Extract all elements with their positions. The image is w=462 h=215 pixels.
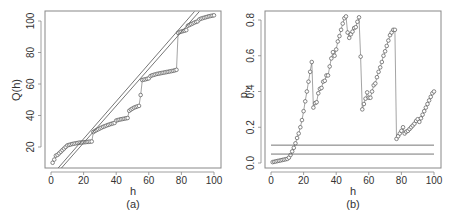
- data-point: [370, 90, 374, 94]
- data-point: [369, 96, 373, 100]
- x-tick-label: 80: [396, 175, 408, 186]
- series-connector: [53, 15, 214, 163]
- panel-b-caption: (b): [346, 198, 359, 210]
- data-point: [307, 80, 311, 84]
- x-tick-label: 80: [176, 175, 188, 186]
- data-point: [400, 129, 404, 133]
- data-point: [418, 120, 422, 124]
- data-point: [334, 48, 338, 52]
- data-point: [374, 82, 378, 86]
- data-point: [359, 55, 363, 59]
- y-tick-label: 80: [25, 47, 36, 59]
- data-point: [339, 28, 343, 32]
- data-point: [421, 113, 425, 117]
- x-tick-label: 20: [298, 175, 310, 186]
- data-point: [300, 118, 304, 122]
- x-tick-label: 60: [143, 175, 155, 186]
- data-point: [354, 25, 358, 29]
- data-point: [341, 22, 345, 26]
- data-point: [356, 20, 360, 24]
- data-point: [362, 102, 366, 106]
- data-point: [52, 158, 56, 162]
- data-point: [294, 142, 298, 146]
- data-point: [139, 93, 143, 97]
- x-tick-label: 40: [331, 175, 343, 186]
- panel-b-plot-area: [271, 15, 436, 164]
- data-point: [175, 68, 179, 72]
- data-point: [90, 140, 94, 144]
- x-tick-label: 60: [363, 175, 375, 186]
- data-point: [382, 54, 386, 58]
- data-point: [347, 36, 351, 40]
- data-point: [299, 125, 303, 129]
- data-point: [292, 146, 296, 150]
- y-tick-label: 100: [25, 12, 36, 29]
- panel-a-plot-area: [51, 12, 216, 171]
- data-point: [422, 109, 426, 113]
- bound-line: [56, 12, 195, 171]
- data-point: [387, 39, 391, 43]
- data-point: [338, 34, 342, 38]
- data-point: [320, 86, 324, 90]
- figure: 020406080100 20406080100 h (a) Q(h) 0204…: [0, 0, 462, 215]
- data-point: [357, 16, 361, 20]
- data-point: [316, 91, 320, 95]
- data-point: [315, 100, 319, 104]
- x-tick-label: 100: [426, 175, 443, 186]
- data-point: [375, 75, 379, 79]
- data-point: [336, 40, 340, 44]
- panel-b-y-label-sub: h: [243, 88, 252, 92]
- panel-b-x-axis: 020406080100: [268, 172, 443, 186]
- x-tick-label: 100: [206, 175, 223, 186]
- x-tick-label: 40: [111, 175, 123, 186]
- bound-line: [59, 12, 199, 171]
- data-point: [290, 150, 294, 154]
- data-point: [344, 15, 348, 19]
- y-tick-label: 20: [25, 141, 36, 153]
- data-point: [310, 60, 314, 64]
- data-point: [424, 106, 428, 110]
- data-point: [212, 14, 216, 18]
- data-point: [432, 90, 436, 94]
- data-point: [308, 70, 312, 74]
- data-point: [295, 136, 299, 140]
- data-point: [378, 66, 382, 70]
- data-point: [360, 108, 364, 112]
- data-point: [297, 132, 301, 136]
- data-point: [328, 65, 332, 69]
- panel-a-caption: (a): [126, 198, 139, 210]
- panel-a-y-axis: 20406080100: [25, 12, 41, 152]
- data-point: [393, 28, 397, 32]
- y-tick-label: 0.8: [245, 13, 256, 27]
- y-tick-label: 0.2: [245, 120, 256, 134]
- data-point: [302, 109, 306, 113]
- data-point: [351, 30, 355, 34]
- data-point: [305, 90, 309, 94]
- data-point: [303, 100, 307, 104]
- data-point: [419, 117, 423, 121]
- x-tick-label: 0: [268, 175, 274, 186]
- x-tick-label: 0: [48, 175, 54, 186]
- y-tick-label: 0.6: [245, 48, 256, 62]
- y-tick-label: 60: [25, 78, 36, 90]
- data-point: [137, 104, 141, 108]
- data-point: [380, 60, 384, 64]
- panel-a: 020406080100 20406080100 h (a) Q(h): [10, 11, 223, 210]
- panel-a-y-label: Q(h): [10, 79, 22, 101]
- data-point: [365, 91, 369, 95]
- panel-a-x-label: h: [130, 185, 136, 197]
- data-point: [331, 50, 335, 54]
- series-connector: [273, 16, 434, 162]
- data-point: [184, 28, 188, 32]
- data-point: [383, 49, 387, 53]
- data-point: [330, 57, 334, 61]
- data-point: [429, 95, 433, 99]
- data-point: [385, 44, 389, 48]
- data-point: [312, 106, 316, 110]
- data-point: [126, 116, 130, 120]
- panel-b-x-label: h: [350, 185, 356, 197]
- data-point: [426, 102, 430, 106]
- data-point: [377, 70, 381, 74]
- data-point: [427, 99, 431, 103]
- data-point: [323, 79, 327, 83]
